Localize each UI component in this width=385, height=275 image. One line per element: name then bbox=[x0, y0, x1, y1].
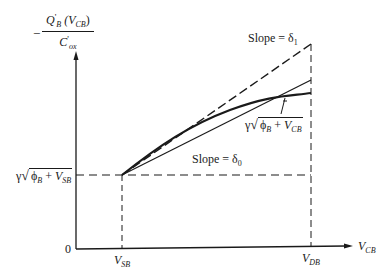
arg-close: ) bbox=[86, 13, 90, 27]
diagram: − Q'B (VCB) C'ox Slope = δ1 γ√ϕB + VCB S… bbox=[0, 0, 385, 275]
x-tick-vdb: VDB bbox=[302, 252, 320, 267]
curve-label: γ√ϕB + VCB bbox=[245, 117, 303, 134]
y-axis-arrow-icon bbox=[74, 51, 79, 60]
sqrt-icon: √ bbox=[250, 117, 258, 132]
plus-sign: + bbox=[42, 169, 55, 183]
x-axis-arrow-icon bbox=[344, 244, 353, 249]
slope-subscript: 1 bbox=[294, 38, 298, 47]
y-tick-label: γ√ϕB + VSB bbox=[16, 168, 72, 185]
arg-open: (V bbox=[61, 13, 75, 27]
y-axis-label-numerator: Q'B (VCB) bbox=[42, 12, 94, 32]
v-subscript: CB bbox=[365, 246, 375, 255]
y-axis-label-denominator: C'ox bbox=[42, 32, 94, 51]
slope-text: Slope = δ bbox=[248, 31, 294, 45]
v-subscript: SB bbox=[62, 176, 71, 185]
curve-pointer-line bbox=[281, 98, 285, 114]
q-symbol: Q bbox=[46, 13, 55, 27]
radicand: ϕB + VSB bbox=[29, 168, 72, 185]
sqrt-icon: √ bbox=[21, 168, 29, 183]
origin-label: 0 bbox=[65, 243, 71, 255]
x-axis bbox=[76, 246, 346, 249]
v-subscript: CB bbox=[291, 125, 301, 134]
plus-sign: + bbox=[271, 118, 284, 132]
slope-delta1-label: Slope = δ1 bbox=[248, 32, 298, 47]
ox-subscript: ox bbox=[69, 42, 77, 51]
x-axis-label: VCB bbox=[358, 240, 376, 255]
y-axis-label: Q'B (VCB) C'ox bbox=[42, 12, 94, 51]
v-subscript: SB bbox=[121, 260, 130, 269]
cb-subscript: CB bbox=[76, 20, 86, 29]
radicand: ϕB + VCB bbox=[258, 117, 303, 134]
slope-delta0-label: Slope = δ0 bbox=[192, 153, 242, 168]
x-tick-vsb: VSB bbox=[114, 254, 130, 269]
slope-text: Slope = δ bbox=[192, 152, 238, 166]
slope-subscript: 0 bbox=[238, 159, 242, 168]
y-axis-label-minus: − bbox=[33, 26, 40, 42]
v-subscript: DB bbox=[309, 258, 320, 267]
